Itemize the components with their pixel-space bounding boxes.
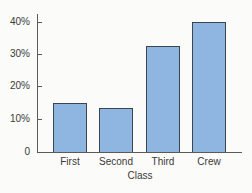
bar-first (53, 103, 87, 152)
bar-second (99, 108, 133, 152)
bar-third (146, 46, 180, 152)
x-tick-label-crew: Crew (184, 156, 234, 167)
y-tick-label: 30% (2, 48, 30, 59)
y-tick-10 (37, 119, 42, 120)
x-tick-label-third: Third (138, 156, 188, 167)
x-axis-title: Class (115, 170, 165, 181)
y-tick-label: 40% (2, 16, 30, 27)
y-tick-label: 20% (2, 80, 30, 91)
y-axis-line (37, 14, 38, 153)
y-tick-label: 0 (2, 146, 30, 157)
y-tick-label: 10% (2, 113, 30, 124)
y-tick-20 (37, 86, 42, 87)
x-tick-label-first: First (45, 156, 95, 167)
x-axis-line (37, 152, 242, 153)
y-tick-30 (37, 54, 42, 55)
bar-chart: 40% 30% 20% 10% 0 First Second Third Cre… (0, 0, 252, 193)
x-tick-label-second: Second (91, 156, 141, 167)
y-tick-40 (37, 22, 42, 23)
bar-crew (192, 22, 226, 152)
